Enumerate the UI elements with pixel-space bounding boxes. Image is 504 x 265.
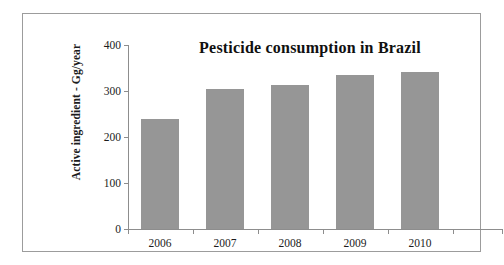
bar-2007[interactable] xyxy=(206,89,244,229)
y-axis-tick-mark xyxy=(124,91,129,92)
y-axis-tick-mark xyxy=(124,183,129,184)
x-axis-tick-mark xyxy=(502,229,503,234)
x-axis-tick-label-2007: 2007 xyxy=(214,237,237,249)
x-axis-tick-mark xyxy=(193,229,194,234)
plot-area: 0 100 200 300 400 xyxy=(128,45,503,229)
figure-container: Active ingredient - Gg/year Pesticide co… xyxy=(0,0,504,265)
y-axis-tick-label: 400 xyxy=(104,39,121,51)
y-axis-title: Active ingredient - Gg/year xyxy=(70,17,82,207)
x-axis-tick-mark xyxy=(388,229,389,234)
y-axis-tick-label: 300 xyxy=(104,85,121,97)
x-axis-tick-mark xyxy=(453,229,454,234)
bar-2006[interactable] xyxy=(141,119,179,229)
bar-2010[interactable] xyxy=(401,72,439,229)
y-axis-tick-label: 200 xyxy=(104,131,121,143)
bar-2008[interactable] xyxy=(271,85,309,229)
bar-2009[interactable] xyxy=(336,75,374,229)
y-axis-tick-mark xyxy=(124,45,129,46)
x-axis-tick-mark xyxy=(128,229,129,234)
x-axis-tick-mark xyxy=(258,229,259,234)
x-axis-tick-mark xyxy=(323,229,324,234)
y-axis-tick-label: 100 xyxy=(104,177,121,189)
figure-border: Active ingredient - Gg/year Pesticide co… xyxy=(22,13,481,252)
x-axis-tick-label-2010: 2010 xyxy=(409,237,432,249)
y-axis-tick-mark xyxy=(124,137,129,138)
y-axis-tick-label: 0 xyxy=(115,223,121,235)
x-axis-line xyxy=(128,229,503,230)
x-axis-tick-label-2009: 2009 xyxy=(344,237,367,249)
x-axis-tick-label-2006: 2006 xyxy=(149,237,172,249)
x-axis-tick-label-2008: 2008 xyxy=(279,237,302,249)
